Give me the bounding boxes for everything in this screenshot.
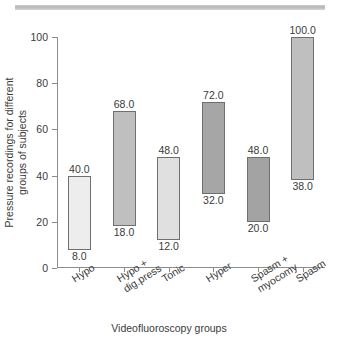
y-axis-tick-label: 20 (36, 216, 48, 228)
y-axis-tick-label: 100 (30, 31, 48, 43)
page-rule-decoration (15, 5, 325, 10)
y-axis-tick-label: 60 (36, 123, 48, 135)
bar: 100.038.0 (291, 37, 314, 180)
y-axis-tick-label: 0 (42, 262, 48, 274)
bar-high-value-label: 40.0 (69, 163, 89, 175)
bar-low-value-label: 8.0 (72, 250, 87, 262)
bar-high-value-label: 48.0 (158, 144, 178, 156)
x-axis-category-label: Hypo (70, 262, 97, 285)
bar-high-value-label: 100.0 (290, 24, 316, 36)
y-axis-tick-mark (52, 83, 57, 84)
bar-low-value-label: 32.0 (203, 194, 223, 206)
y-axis-tick-label: 40 (36, 170, 48, 182)
bar-high-value-label: 72.0 (203, 89, 223, 101)
figure: Pressure recordings for different groups… (0, 0, 338, 345)
bar-low-value-label: 38.0 (292, 180, 312, 192)
bar: 68.018.0 (113, 111, 136, 227)
bar-high-value-label: 68.0 (114, 98, 134, 110)
x-axis-category-label: Spasm (294, 258, 328, 285)
y-axis-tick-mark (52, 176, 57, 177)
bar: 48.020.0 (247, 157, 270, 222)
bar: 48.012.0 (157, 157, 180, 240)
x-axis-category-label: Spasm + myocomy (249, 251, 300, 295)
y-axis-title-line-2: groups of subjects (16, 110, 28, 195)
x-axis-category-label: Hypo + dig.press (115, 252, 164, 295)
y-axis-tick-mark (52, 268, 57, 269)
y-axis-title-line-1: Pressure recordings for different (3, 78, 15, 228)
bar-low-value-label: 20.0 (248, 222, 268, 234)
bar-high-value-label: 48.0 (248, 144, 268, 156)
y-axis-tick-mark (52, 222, 57, 223)
bar-low-value-label: 18.0 (114, 226, 134, 238)
x-axis-title: Videofluoroscopy groups (0, 322, 338, 334)
plot-area: 02040608010040.08.0Hypo68.018.0Hypo + di… (57, 37, 325, 268)
y-axis-tick-mark (52, 37, 57, 38)
bar: 72.032.0 (202, 102, 225, 194)
y-axis-title: Pressure recordings for different groups… (3, 37, 29, 268)
x-axis-category-label: Hyper (204, 260, 234, 285)
bar: 40.08.0 (68, 176, 91, 250)
bar-low-value-label: 12.0 (158, 240, 178, 252)
y-axis-tick-label: 80 (36, 77, 48, 89)
y-axis-tick-mark (52, 129, 57, 130)
x-axis-category-label: Tonic (160, 262, 187, 285)
